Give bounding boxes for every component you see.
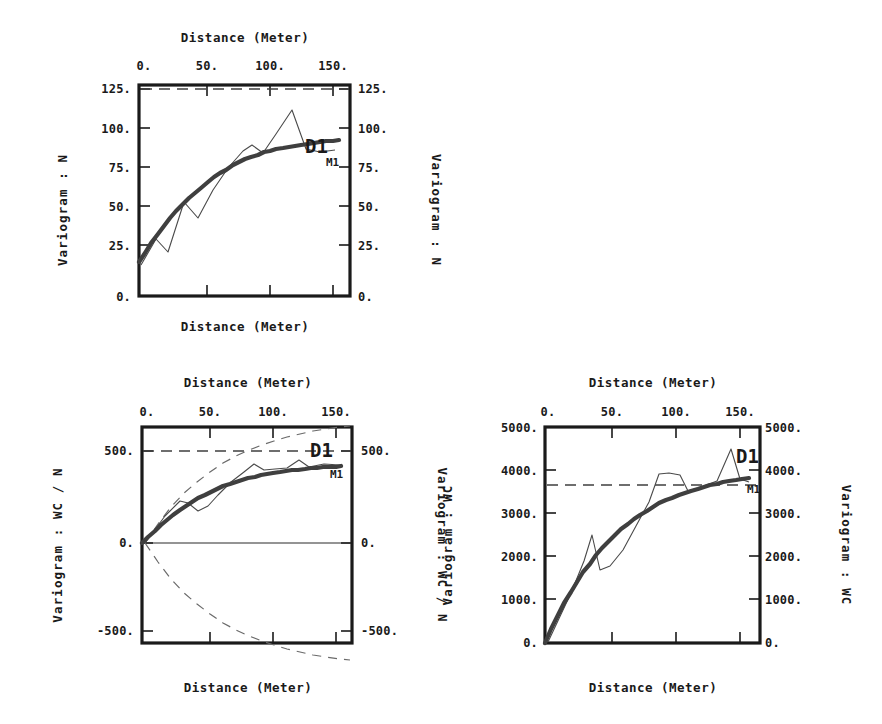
cross-variogram-svg: Distance (Meter) 0. 50. 100. 150. 500. 0… [0,365,470,710]
right-tick-label-50: 50. [358,200,380,214]
left-tick-label-0: 0. [523,636,538,650]
tick-marks [545,427,760,643]
experimental-curve-d1 [145,460,340,543]
left-tick-label-minus500: -500. [97,624,134,638]
series-label-m1: M1 [747,483,761,496]
right-axis-label: Variogram : WC [839,485,854,606]
top-tick-label-50: 50. [199,405,221,419]
model-curve-m1 [545,478,749,643]
variogram-wc-svg: Distance (Meter) 0. 50. 100. 150. 5000. … [420,365,882,710]
right-tick-label-minus500: -500. [361,624,398,638]
series-label-m1: M1 [330,468,344,481]
top-tick-label-0: 0. [140,405,155,419]
right-tick-label-125: 125. [358,82,388,96]
left-tick-label-75: 75. [109,161,131,175]
left-tick-label-1000: 1000. [501,593,538,607]
model-curve-m1 [139,140,339,262]
top-tick-label-100: 100. [255,59,285,73]
bottom-axis-title: Distance (Meter) [589,680,717,695]
plot-area-3: D1 M1 [545,427,761,643]
left-tick-label-25: 25. [109,239,131,253]
left-tick-labels: 500. 0. -500. [97,444,134,638]
right-tick-label-0: 0. [765,636,780,650]
left-tick-labels: 5000. 4000. 3000. 2000. 1000. 0. [501,421,538,650]
left-tick-label-0: 0. [116,290,131,304]
chart-panel-variogram-wc: Distance (Meter) 0. 50. 100. 150. 5000. … [420,365,882,710]
right-tick-label-0: 0. [358,290,373,304]
left-axis-label: Variogram : N [55,154,70,266]
right-tick-label-4000: 4000. [765,464,802,478]
left-tick-label-0: 0. [119,536,134,550]
left-tick-label-4000: 4000. [501,464,538,478]
right-tick-label-5000: 5000. [765,421,802,435]
left-axis-label: Variogram : WC [440,485,455,606]
series-label-d1: D1 [310,439,333,461]
series-label-m1: M1 [326,156,340,169]
top-axis-title: Distance (Meter) [184,375,312,390]
right-axis-label: Variogram : N [429,154,444,266]
top-tick-label-150: 150. [321,405,351,419]
right-tick-label-3000: 3000. [765,507,802,521]
top-tick-label-100: 100. [661,405,691,419]
right-tick-label-25: 25. [358,239,380,253]
top-tick-label-0: 0. [137,59,152,73]
plot-frame [545,427,760,643]
top-tick-label-150: 150. [318,59,348,73]
left-tick-label-500: 500. [104,444,134,458]
series-label-d1: D1 [305,135,328,157]
bottom-axis-title: Distance (Meter) [184,680,312,695]
chart-panel-variogram-n: Distance (Meter) 0. 50. 100. 150. 125. 1… [0,20,470,350]
experimental-curve-d1 [141,110,335,265]
right-tick-label-75: 75. [358,161,380,175]
top-tick-label-0: 0. [541,405,556,419]
right-tick-label-2000: 2000. [765,550,802,564]
left-tick-label-125: 125. [101,82,131,96]
series-label-d1: D1 [736,445,759,467]
plot-area-2: D1 M1 [142,426,352,660]
plot-frame [139,85,350,296]
experimental-curve-d1 [548,449,749,642]
left-tick-label-5000: 5000. [501,421,538,435]
tick-marks [139,85,350,296]
right-tick-labels: 125. 100. 75. 50. 25. 0. [358,82,388,304]
right-tick-label-500: 500. [361,444,391,458]
top-tick-label-50: 50. [601,405,623,419]
top-axis-title: Distance (Meter) [181,30,309,45]
left-tick-labels: 125. 100. 75. 50. 25. 0. [101,82,131,304]
left-axis-label: Variogram : WC / N [50,467,65,622]
variogram-n-svg: Distance (Meter) 0. 50. 100. 150. 125. 1… [0,20,470,350]
top-axis-title: Distance (Meter) [589,375,717,390]
left-tick-label-3000: 3000. [501,507,538,521]
right-tick-labels: 500. 0. -500. [361,444,398,638]
top-tick-labels: 0. 50. 100. 150. [541,405,755,419]
plot-area-1: D1 M1 [139,85,350,296]
chart-panel-cross-variogram-wc-n: Distance (Meter) 0. 50. 100. 150. 500. 0… [0,365,470,710]
top-tick-labels: 0. 50. 100. 150. [140,405,351,419]
left-tick-label-100: 100. [101,122,131,136]
right-tick-label-0: 0. [361,536,376,550]
bottom-axis-title: Distance (Meter) [181,319,309,334]
right-tick-label-100: 100. [358,122,388,136]
model-curve-m1 [142,466,341,543]
top-tick-labels: 0. 50. 100. 150. [137,59,348,73]
top-tick-label-50: 50. [196,59,218,73]
left-tick-label-2000: 2000. [501,550,538,564]
left-tick-label-50: 50. [109,200,131,214]
right-tick-labels: 5000. 4000. 3000. 2000. 1000. 0. [765,421,802,650]
top-tick-label-150: 150. [725,405,755,419]
top-tick-label-100: 100. [258,405,288,419]
right-tick-label-1000: 1000. [765,593,802,607]
